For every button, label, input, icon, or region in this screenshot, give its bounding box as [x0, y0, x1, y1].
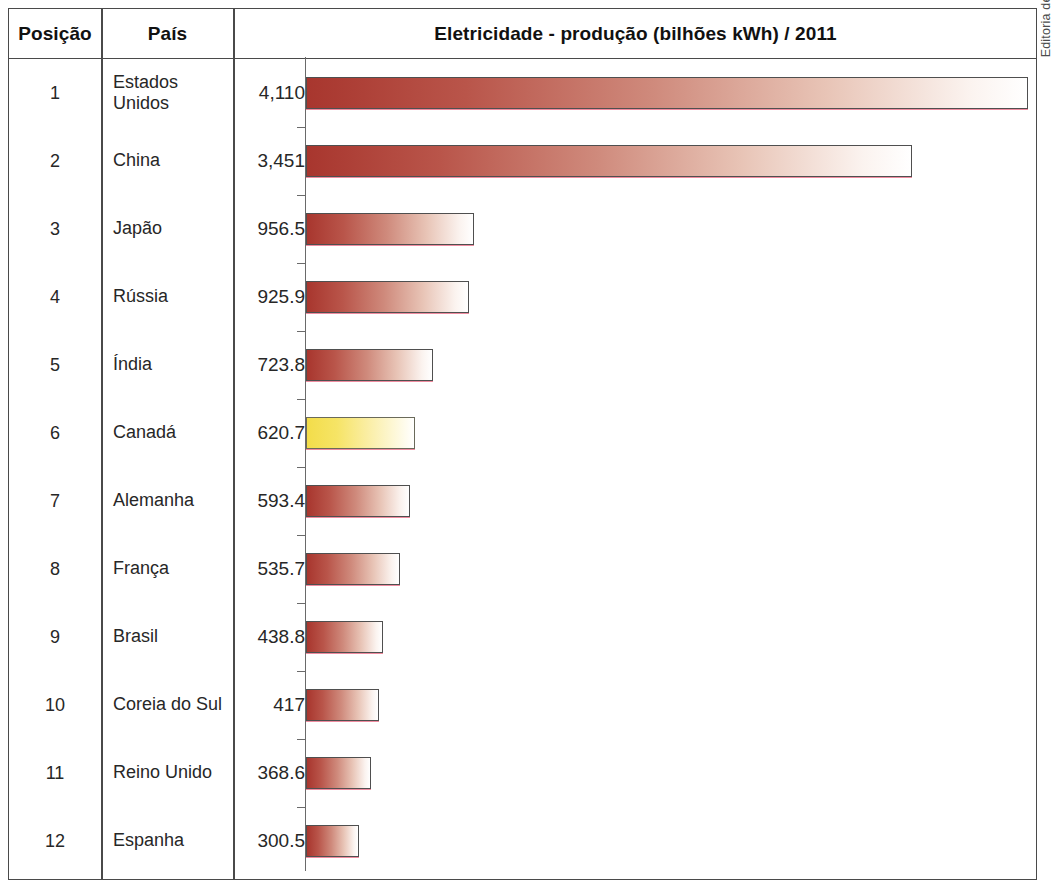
cell-value-label: 4,110 — [235, 59, 305, 127]
cell-country: Espanha — [102, 807, 233, 875]
cell-position: 3 — [9, 195, 101, 263]
table-row: 3Japão956.5 — [9, 195, 1036, 263]
table-row: 12Espanha300.5 — [9, 807, 1036, 875]
cell-country: Rússia — [102, 263, 233, 331]
data-table: Posição País Eletricidade - produção (bi… — [8, 8, 1037, 880]
cell-country: Alemanha — [102, 467, 233, 535]
table-row: 10Coreia do Sul417 — [9, 671, 1036, 739]
cell-value-label: 593.4 — [235, 467, 305, 535]
table-row: 8França535.7 — [9, 535, 1036, 603]
cell-position: 10 — [9, 671, 101, 739]
table-row: 4Rússia925.9 — [9, 263, 1036, 331]
header-position: Posição — [9, 9, 101, 59]
cell-country: Brasil — [102, 603, 233, 671]
cell-country: Estados Unidos — [102, 59, 233, 127]
cell-value-label: 620.7 — [235, 399, 305, 467]
cell-value-label: 438.8 — [235, 603, 305, 671]
cell-position: 8 — [9, 535, 101, 603]
cell-position: 7 — [9, 467, 101, 535]
cell-position: 11 — [9, 739, 101, 807]
cell-country: China — [102, 127, 233, 195]
table-row: 2China3,451 — [9, 127, 1036, 195]
cell-country: Reino Unido — [102, 739, 233, 807]
cell-position: 5 — [9, 331, 101, 399]
cell-value-label: 723.8 — [235, 331, 305, 399]
cell-country: Canadá — [102, 399, 233, 467]
cell-value-label: 300.5 — [235, 807, 305, 875]
cell-position: 4 — [9, 263, 101, 331]
cell-position: 2 — [9, 127, 101, 195]
cell-value-label: 956.5 — [235, 195, 305, 263]
cell-position: 6 — [9, 399, 101, 467]
header-chart-title: Eletricidade - produção (bilhões kWh) / … — [235, 9, 1036, 59]
cell-value-label: 3,451 — [235, 127, 305, 195]
credit-text: Editoria de Arte — [1039, 0, 1053, 57]
table-row: 6Canadá620.7 — [9, 399, 1036, 467]
cell-country: Índia — [102, 331, 233, 399]
cell-country: Coreia do Sul — [102, 671, 233, 739]
table-body: 1Estados Unidos4,1102China3,4513Japão956… — [9, 59, 1036, 879]
cell-country: Japão — [102, 195, 233, 263]
credit-label: Editoria de Arte — [1036, 6, 1056, 186]
cell-country: França — [102, 535, 233, 603]
table-row: 11Reino Unido368.6 — [9, 739, 1036, 807]
cell-value-label: 535.7 — [235, 535, 305, 603]
header-country: País — [102, 9, 233, 59]
table-row: 9Brasil438.8 — [9, 603, 1036, 671]
table-row: 5Índia723.8 — [9, 331, 1036, 399]
cell-position: 12 — [9, 807, 101, 875]
cell-value-label: 368.6 — [235, 739, 305, 807]
table-row: 1Estados Unidos4,110 — [9, 59, 1036, 127]
chart-page: Posição País Eletricidade - produção (bi… — [0, 0, 1058, 894]
cell-position: 9 — [9, 603, 101, 671]
table-row: 7Alemanha593.4 — [9, 467, 1036, 535]
cell-value-label: 925.9 — [235, 263, 305, 331]
table-header-row: Posição País Eletricidade - produção (bi… — [9, 9, 1036, 59]
cell-value-label: 417 — [235, 671, 305, 739]
cell-position: 1 — [9, 59, 101, 127]
